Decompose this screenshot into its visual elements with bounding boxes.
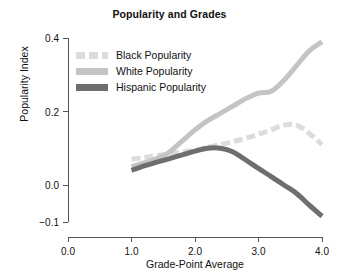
legend-swatch-icon xyxy=(76,84,108,91)
y-axis-label: Popularity Index xyxy=(18,14,30,154)
y-axis-tick-label: 0.0 xyxy=(0,180,59,191)
x-axis-label: Grade-Point Average xyxy=(60,258,330,270)
series-line-black-popularity xyxy=(132,124,323,159)
legend-item-label: Black Popularity xyxy=(116,49,191,61)
chart-container: Popularity and Grades 0.40.20.0−0.10.01.… xyxy=(0,0,339,279)
legend-swatch-icon xyxy=(76,68,108,75)
x-axis-tick-label: 3.0 xyxy=(252,246,266,257)
chart-legend: Black PopularityWhite PopularityHispanic… xyxy=(76,47,206,95)
legend-swatch-icon xyxy=(76,52,108,59)
y-axis-tick-label: −0.1 xyxy=(0,217,59,228)
x-axis-tick-label: 0.0 xyxy=(61,246,75,257)
legend-item[interactable]: Hispanic Popularity xyxy=(76,79,206,95)
x-axis-tick-label: 1.0 xyxy=(125,246,139,257)
x-axis-tick-label: 2.0 xyxy=(188,246,202,257)
legend-item-label: White Popularity xyxy=(116,65,192,77)
x-axis-tick-label: 4.0 xyxy=(315,246,329,257)
legend-item-label: Hispanic Popularity xyxy=(116,81,206,93)
legend-item[interactable]: Black Popularity xyxy=(76,47,206,63)
legend-item[interactable]: White Popularity xyxy=(76,63,206,79)
